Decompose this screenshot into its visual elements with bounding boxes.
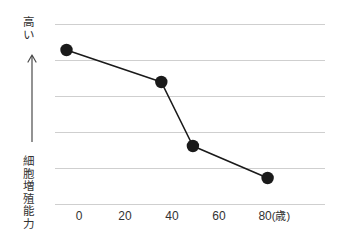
- up-arrow-icon: [27, 50, 37, 142]
- x-tick-label-40: 40: [165, 209, 178, 223]
- x-tick-label-20: 20: [118, 209, 131, 223]
- x-tick-label-0: 0: [76, 209, 83, 223]
- x-tick-text: 0: [76, 209, 83, 223]
- y-axis-metric-label-wrapper: 細胞増殖能力: [10, 155, 44, 230]
- plot-area: [55, 18, 325, 210]
- y-axis-caption: 高い 細胞増殖能力: [10, 14, 44, 230]
- y-axis-metric-label: 細胞増殖能力: [21, 155, 34, 230]
- cell-proliferation-line-chart: 高い 細胞増殖能力 0 20 40 60 80(歳): [0, 0, 342, 246]
- series-line: [67, 50, 268, 178]
- x-tick-text: 20: [118, 209, 131, 223]
- data-point-marker: [261, 172, 273, 184]
- data-point-marker: [187, 140, 199, 152]
- y-axis-high-label: 高い: [21, 16, 34, 41]
- x-tick-text: 80: [258, 209, 271, 223]
- y-axis-high-label-wrapper: 高い: [10, 16, 44, 41]
- x-tick-text: 40: [165, 209, 178, 223]
- data-series-cell-proliferation: [55, 18, 325, 210]
- x-tick-text: 60: [212, 209, 225, 223]
- series-markers: [60, 44, 273, 184]
- x-axis-unit-label: (歳): [272, 210, 290, 222]
- data-point-marker: [155, 76, 167, 88]
- x-tick-label-80: 80(歳): [258, 209, 290, 223]
- data-point-marker: [60, 44, 72, 56]
- x-tick-label-60: 60: [212, 209, 225, 223]
